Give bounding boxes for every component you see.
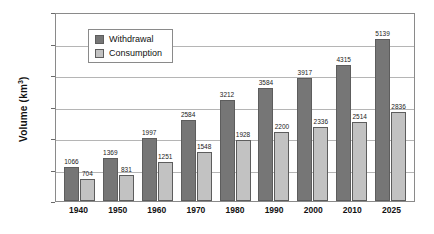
bar-withdrawal-2025: 5139 xyxy=(375,39,390,201)
bar-value-label: 2336 xyxy=(314,118,328,125)
bar-withdrawal-1990: 3584 xyxy=(258,88,273,201)
bar-withdrawal-1980: 3212 xyxy=(220,100,235,201)
x-axis-tick-label-1990: 1990 xyxy=(255,205,294,215)
bar-value-label: 831 xyxy=(121,166,132,173)
bar-value-label: 2514 xyxy=(352,113,366,120)
bar-consumption-2010: 2514 xyxy=(352,122,367,201)
x-axis-tick-label-1960: 1960 xyxy=(137,205,176,215)
bar-withdrawal-1950: 1369 xyxy=(103,158,118,201)
bar-consumption-1970: 1548 xyxy=(197,152,212,201)
bar-value-label: 3917 xyxy=(298,69,312,76)
bar-consumption-1990: 2200 xyxy=(274,132,289,201)
bar-consumption-1950: 831 xyxy=(119,175,134,201)
bar-value-label: 2200 xyxy=(275,123,289,130)
x-axis-tick-label-1950: 1950 xyxy=(98,205,137,215)
x-axis-tick-label-1970: 1970 xyxy=(176,205,215,215)
bar-group: 35842200 xyxy=(254,14,293,201)
bar-value-label: 1066 xyxy=(64,158,78,165)
bar-consumption-1980: 1928 xyxy=(236,140,251,201)
bar-withdrawal-2000: 3917 xyxy=(297,78,312,201)
x-axis-tick-label-2025: 2025 xyxy=(372,205,411,215)
bar-consumption-1940: 704 xyxy=(80,179,95,201)
bar-value-label: 1928 xyxy=(236,131,250,138)
legend-swatch-consumption-icon xyxy=(95,49,104,58)
bar-value-label: 1997 xyxy=(142,129,156,136)
bar-value-label: 3212 xyxy=(220,91,234,98)
x-axis-tick-label-2010: 2010 xyxy=(333,205,372,215)
bar-chart: Volume (km3) 6000500040003000200010000 1… xyxy=(0,0,434,234)
bar-withdrawal-1970: 2584 xyxy=(181,120,196,201)
legend-item-consumption[interactable]: Consumption xyxy=(95,48,162,58)
bar-group: 25841548 xyxy=(177,14,216,201)
bar-consumption-2025: 2836 xyxy=(391,112,406,201)
bar-value-label: 1369 xyxy=(103,149,117,156)
bar-value-label: 3584 xyxy=(259,79,273,86)
x-axis-labels: 194019501960197019801990200020102025 xyxy=(55,205,415,215)
y-axis-tick-mark xyxy=(51,202,55,203)
chart-legend: WithdrawalConsumption xyxy=(88,29,173,63)
bar-value-label: 1251 xyxy=(158,153,172,160)
bar-value-label: 2584 xyxy=(181,111,195,118)
bar-consumption-2000: 2336 xyxy=(313,127,328,201)
bar-withdrawal-2010: 4315 xyxy=(336,65,351,201)
bar-value-label: 4315 xyxy=(336,56,350,63)
bar-value-label: 2836 xyxy=(391,103,405,110)
legend-swatch-withdrawal-icon xyxy=(95,35,104,44)
legend-label: Withdrawal xyxy=(109,34,154,44)
x-axis-tick-label-1940: 1940 xyxy=(59,205,98,215)
bar-group: 32121928 xyxy=(216,14,255,201)
legend-item-withdrawal[interactable]: Withdrawal xyxy=(95,34,162,44)
bar-value-label: 704 xyxy=(82,170,93,177)
bar-value-label: 1548 xyxy=(197,143,211,150)
bar-group: 39172336 xyxy=(293,14,332,201)
x-axis-tick-label-2000: 2000 xyxy=(294,205,333,215)
legend-label: Consumption xyxy=(109,48,162,58)
bar-group: 51392836 xyxy=(371,14,410,201)
x-axis-tick-label-1980: 1980 xyxy=(215,205,254,215)
bar-withdrawal-1940: 1066 xyxy=(64,167,79,201)
bar-value-label: 5139 xyxy=(375,30,389,37)
bar-group: 43152514 xyxy=(332,14,371,201)
bar-consumption-1960: 1251 xyxy=(158,162,173,201)
bar-withdrawal-1960: 1997 xyxy=(142,138,157,201)
